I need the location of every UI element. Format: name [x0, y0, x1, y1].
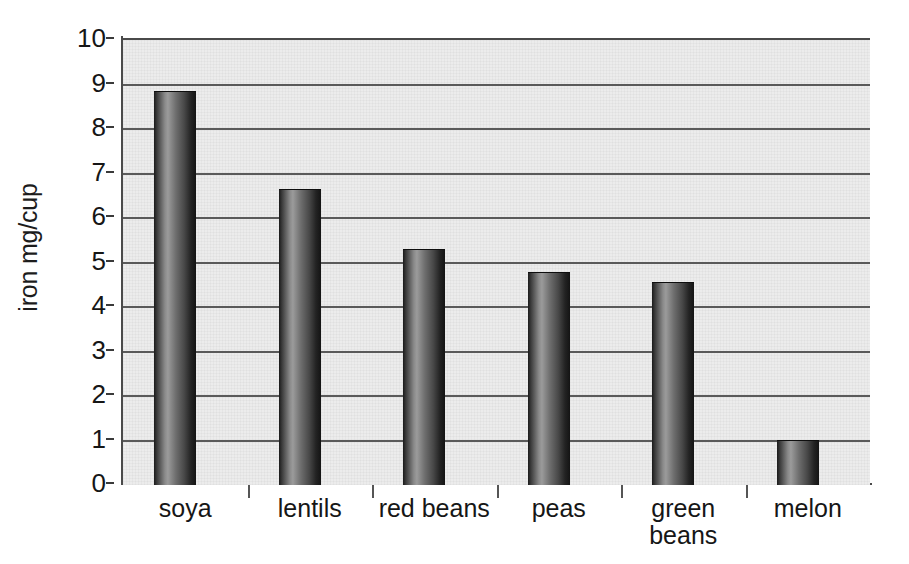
bar — [154, 91, 196, 485]
y-axis-tick-labels: 012345678910 — [62, 38, 114, 483]
y-axis-tick-label: 5 — [92, 248, 106, 274]
bar — [652, 282, 694, 485]
y-axis-tick-label: 7 — [92, 159, 106, 185]
y-axis-tick-label: 8 — [92, 114, 106, 140]
y-axis-tick-label: 4 — [92, 292, 106, 318]
gridline — [123, 440, 870, 442]
bar — [777, 440, 819, 485]
x-axis-category-label: red beans — [372, 495, 497, 522]
y-axis-tick-mark — [106, 37, 114, 39]
y-axis-tick-mark — [106, 393, 114, 395]
y-axis-tick-label: 0 — [92, 470, 106, 496]
y-axis-tick-label: 6 — [92, 203, 106, 229]
gridline — [123, 306, 870, 308]
x-axis-category-label: melon — [746, 495, 871, 522]
plot-area — [123, 38, 870, 485]
y-axis-tick-mark — [106, 438, 114, 440]
gridline — [123, 395, 870, 397]
bar-chart: iron mg/cup 012345678910 soyalentilsred … — [0, 0, 909, 564]
y-axis-tick-mark — [106, 126, 114, 128]
y-axis-tick-label: 9 — [92, 70, 106, 96]
y-axis-tick-mark — [106, 349, 114, 351]
y-axis-title-text: iron mg/cup — [14, 183, 43, 311]
y-axis-tick-label: 1 — [92, 426, 106, 452]
y-axis-title: iron mg/cup — [0, 0, 56, 495]
gridline — [123, 128, 870, 130]
gridline — [123, 84, 870, 86]
y-axis-tick-label: 2 — [92, 381, 106, 407]
y-axis-tick-mark — [106, 304, 114, 306]
y-axis-tick-mark — [106, 482, 114, 484]
y-axis-tick-mark — [106, 171, 114, 173]
x-axis-category-label: green beans — [621, 495, 746, 549]
x-axis-category-label: soya — [123, 495, 248, 522]
y-axis-tick-label: 10 — [77, 25, 106, 51]
gridline — [123, 217, 870, 219]
bar — [279, 189, 321, 485]
y-axis-tick-label: 3 — [92, 337, 106, 363]
y-axis-tick-mark — [106, 82, 114, 84]
x-axis-category-label: peas — [497, 495, 622, 522]
bar — [528, 272, 570, 485]
gridline — [123, 351, 870, 353]
x-axis-category-label: lentils — [248, 495, 373, 522]
gridline — [123, 173, 870, 175]
bar — [403, 249, 445, 485]
y-axis-tick-mark — [106, 260, 114, 262]
y-axis-tick-mark — [106, 215, 114, 217]
gridline — [123, 262, 870, 264]
